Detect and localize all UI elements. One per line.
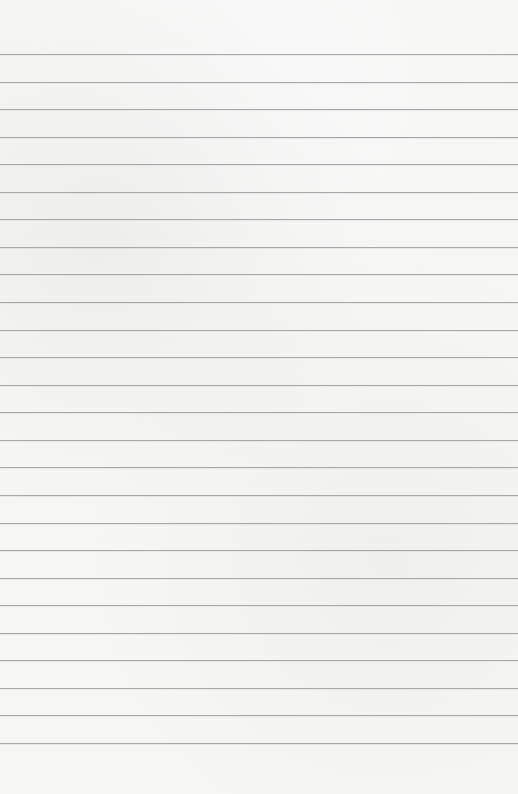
ruled-line [0, 302, 518, 303]
ruled-line [0, 357, 518, 358]
ruled-line [0, 330, 518, 331]
ruled-line [0, 550, 518, 551]
ruled-line [0, 523, 518, 524]
ruled-line [0, 440, 518, 441]
ruled-line [0, 385, 518, 386]
ruled-line [0, 715, 518, 716]
ruled-line [0, 164, 518, 165]
ruled-paper-sheet [0, 0, 518, 794]
ruled-line [0, 412, 518, 413]
ruled-line [0, 633, 518, 634]
ruled-line [0, 743, 518, 744]
ruled-line [0, 137, 518, 138]
ruled-line [0, 688, 518, 689]
ruled-line [0, 109, 518, 110]
ruled-line [0, 219, 518, 220]
ruled-line [0, 495, 518, 496]
ruled-line [0, 578, 518, 579]
ruled-line [0, 467, 518, 468]
ruled-line [0, 82, 518, 83]
ruled-line [0, 192, 518, 193]
ruled-line [0, 274, 518, 275]
ruled-line [0, 605, 518, 606]
ruled-line [0, 54, 518, 55]
ruled-line [0, 660, 518, 661]
ruled-line [0, 247, 518, 248]
